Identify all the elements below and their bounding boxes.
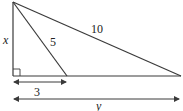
right-angle-marker [13,69,20,76]
triangle-diagram: x 5 10 3 y [0,0,183,111]
label-3: 3 [34,85,40,99]
label-10: 10 [91,22,103,36]
inner-hypotenuse [13,2,67,76]
label-y: y [95,99,102,111]
label-x: x [2,33,9,47]
outer-hypotenuse [13,2,181,76]
label-5: 5 [50,35,56,49]
